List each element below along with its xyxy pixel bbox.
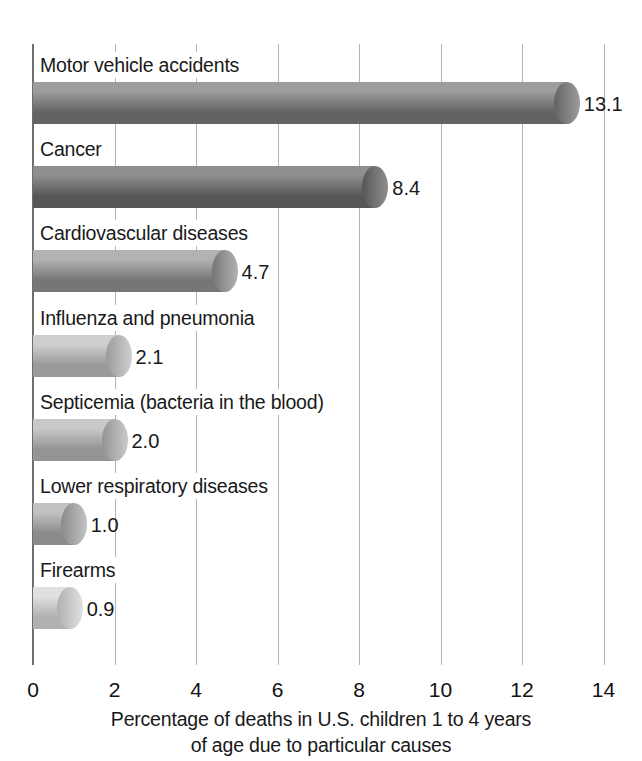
bar-category-label: Lower respiratory diseases: [40, 473, 272, 499]
bar-row: Septicemia (bacteria in the blood)2.0: [0, 389, 642, 461]
x-axis-tick-label: 4: [190, 679, 202, 700]
bar-value-label: 4.7: [242, 262, 270, 282]
bar-value-label: 2.0: [132, 431, 160, 451]
bar-body: [33, 166, 375, 208]
caption-line-2: of age due to particular causes: [0, 732, 642, 758]
bar: [33, 250, 225, 292]
bar-row: Cardiovascular diseases4.7: [0, 220, 642, 292]
bar: [33, 587, 70, 629]
bar-row: Cancer8.4: [0, 136, 642, 208]
x-axis-tick-label: 14: [592, 679, 615, 700]
bar-row: Influenza and pneumonia2.1: [0, 305, 642, 377]
bar: [33, 503, 74, 545]
bar-category-label: Motor vehicle accidents: [40, 52, 243, 78]
bar: [33, 335, 119, 377]
x-axis-tick-label: 6: [272, 679, 284, 700]
bar-category-label: Septicemia (bacteria in the blood): [40, 389, 328, 415]
bar-category-label: Cardiovascular diseases: [40, 220, 252, 246]
bar-category-label: Cancer: [40, 136, 106, 162]
x-axis-tick-label: 2: [109, 679, 121, 700]
bar-body: [33, 250, 225, 292]
bar-row: Motor vehicle accidents13.1: [0, 52, 642, 124]
bar-chart: Motor vehicle accidents13.1Cancer8.4Card…: [0, 0, 642, 761]
plot-area: Motor vehicle accidents13.1Cancer8.4Card…: [0, 0, 642, 665]
x-axis-tick-label: 8: [353, 679, 365, 700]
bar-category-label: Firearms: [40, 557, 119, 583]
bar-value-label: 8.4: [392, 178, 420, 198]
bar-body: [33, 82, 567, 124]
bar-end-cap: [212, 250, 238, 292]
bar-end-cap: [554, 82, 580, 124]
bar-row: Lower respiratory diseases1.0: [0, 473, 642, 545]
bar: [33, 419, 115, 461]
bar-end-cap: [57, 587, 83, 629]
axis-caption: Percentage of deaths in U.S. children 1 …: [0, 706, 642, 758]
bar-value-label: 2.1: [136, 347, 164, 367]
x-axis-tick-label: 10: [429, 679, 452, 700]
x-axis-tick-label: 0: [27, 679, 39, 700]
bar-row: Firearms0.9: [0, 557, 642, 629]
bar-value-label: 1.0: [91, 515, 119, 535]
x-axis-tick-label: 12: [510, 679, 533, 700]
bar: [33, 166, 375, 208]
bar-value-label: 13.1: [584, 94, 623, 114]
bar: [33, 82, 567, 124]
bar-end-cap: [106, 335, 132, 377]
bar-value-label: 0.9: [87, 599, 115, 619]
bar-end-cap: [102, 419, 128, 461]
caption-line-1: Percentage of deaths in U.S. children 1 …: [0, 706, 642, 732]
bar-category-label: Influenza and pneumonia: [40, 305, 258, 331]
bar-end-cap: [61, 503, 87, 545]
bar-end-cap: [362, 166, 388, 208]
